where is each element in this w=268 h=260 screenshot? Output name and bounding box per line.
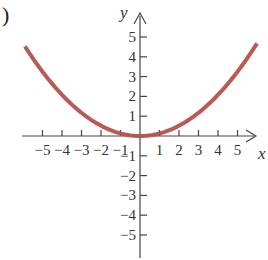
y-tick-label: −3 [120,187,136,203]
axes: −5−4−3−2−112345−5−4−3−2−112345xy [22,3,266,258]
x-tick-label: −5 [35,142,51,158]
x-axis-label: x [257,144,266,163]
y-tick-label: −2 [120,168,136,184]
y-tick-label: 3 [129,69,137,85]
x-tick-label: 3 [195,142,203,158]
x-tick-label: 1 [156,142,164,158]
y-tick-label: 2 [129,88,137,104]
x-tick-label: −4 [54,142,70,158]
y-tick-label: −1 [120,148,136,164]
y-tick-label: −4 [120,207,136,223]
x-tick-label: 5 [234,142,242,158]
x-tick-label: 2 [175,142,183,158]
y-tick-label: −5 [120,227,136,243]
x-tick-label: −3 [74,142,90,158]
chart-plot: ) −5−4−3−2−112345−5−4−3−2−112345xy [0,0,268,260]
y-tick-label: 5 [129,29,137,45]
x-tick-label: −2 [93,142,109,158]
y-axis-label: y [118,3,128,22]
panel-label: ) [2,2,9,27]
y-tick-label: 4 [129,49,137,65]
x-tick-label: 4 [214,142,222,158]
y-tick-label: 1 [129,108,137,124]
